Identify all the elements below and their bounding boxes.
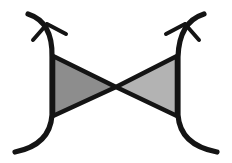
- figure-container: Bowtie diagram with curved side arcs and…: [0, 0, 232, 163]
- bowtie-diagram: Bowtie diagram with curved side arcs and…: [0, 0, 232, 163]
- figure-background: [0, 0, 232, 163]
